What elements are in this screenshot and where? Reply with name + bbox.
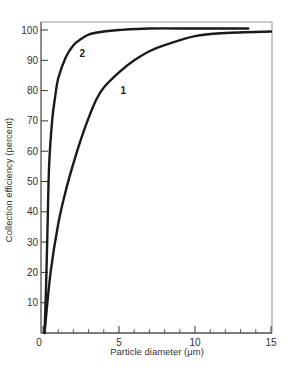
collection-efficiency-chart: 102030405060708090100 51015 12 Particle … — [0, 0, 291, 372]
plot-frame — [41, 22, 272, 333]
y-tick-label: 50 — [27, 176, 39, 187]
curve-2 — [45, 28, 249, 333]
y-tick-label: 40 — [27, 206, 39, 217]
y-tick-label: 90 — [27, 55, 39, 66]
x-tick-label: 15 — [265, 337, 277, 348]
y-tick-label: 10 — [27, 297, 39, 308]
y-tick-label: 60 — [27, 146, 39, 157]
x-axis-ticks: 51015 — [43, 326, 277, 348]
curve-1 — [45, 32, 271, 333]
curves — [45, 28, 271, 333]
y-axis-title: Collection efficiency (percent) — [3, 118, 14, 242]
y-tick-label: 20 — [27, 267, 39, 278]
x-axis-title: Particle diameter (μm) — [110, 346, 204, 357]
x-origin-label: 0 — [36, 337, 42, 348]
y-tick-label: 80 — [27, 85, 39, 96]
curve-label-2: 2 — [79, 48, 85, 59]
y-axis-ticks: 102030405060708090100 — [21, 25, 48, 309]
y-tick-label: 100 — [21, 25, 38, 36]
y-tick-label: 70 — [27, 115, 39, 126]
y-tick-label: 30 — [27, 237, 39, 248]
curve-label-1: 1 — [121, 85, 127, 96]
